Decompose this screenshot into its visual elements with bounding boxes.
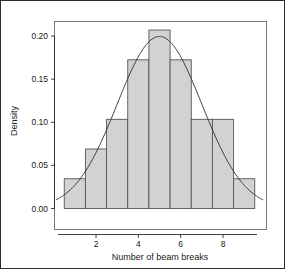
histogram-bar [85, 149, 106, 209]
histogram-bar [149, 30, 170, 208]
y-axis-tick-label: 0.00 [31, 204, 48, 214]
y-axis-tick-label: 0.05 [31, 160, 48, 170]
histogram-bars [64, 30, 255, 208]
histogram-bar [191, 119, 212, 208]
y-axis-tick-label: 0.20 [31, 31, 48, 41]
y-axis: 0.000.050.100.150.20 [31, 31, 54, 214]
x-axis: 2468 [58, 235, 257, 249]
histogram-bar [212, 119, 233, 208]
plot-canvas: 0.000.050.100.150.20 2468 Number of beam… [1, 1, 285, 269]
y-axis-tick-label: 0.15 [31, 74, 48, 84]
histogram-bar [107, 119, 128, 208]
x-axis-tick-label: 2 [94, 239, 99, 249]
y-axis-tick-label: 0.10 [31, 117, 48, 127]
histogram-bar [128, 60, 149, 209]
histogram-bar [64, 179, 85, 209]
x-axis-tick-label: 4 [136, 239, 141, 249]
x-axis-tick-label: 6 [178, 239, 183, 249]
x-axis-tick-label: 8 [221, 239, 226, 249]
histogram-figure: 0.000.050.100.150.20 2468 Number of beam… [0, 0, 285, 269]
y-axis-title: Density [9, 105, 19, 136]
histogram-bar [234, 179, 255, 209]
x-axis-title: Number of beam breaks [112, 252, 209, 262]
histogram-bar [170, 60, 191, 209]
